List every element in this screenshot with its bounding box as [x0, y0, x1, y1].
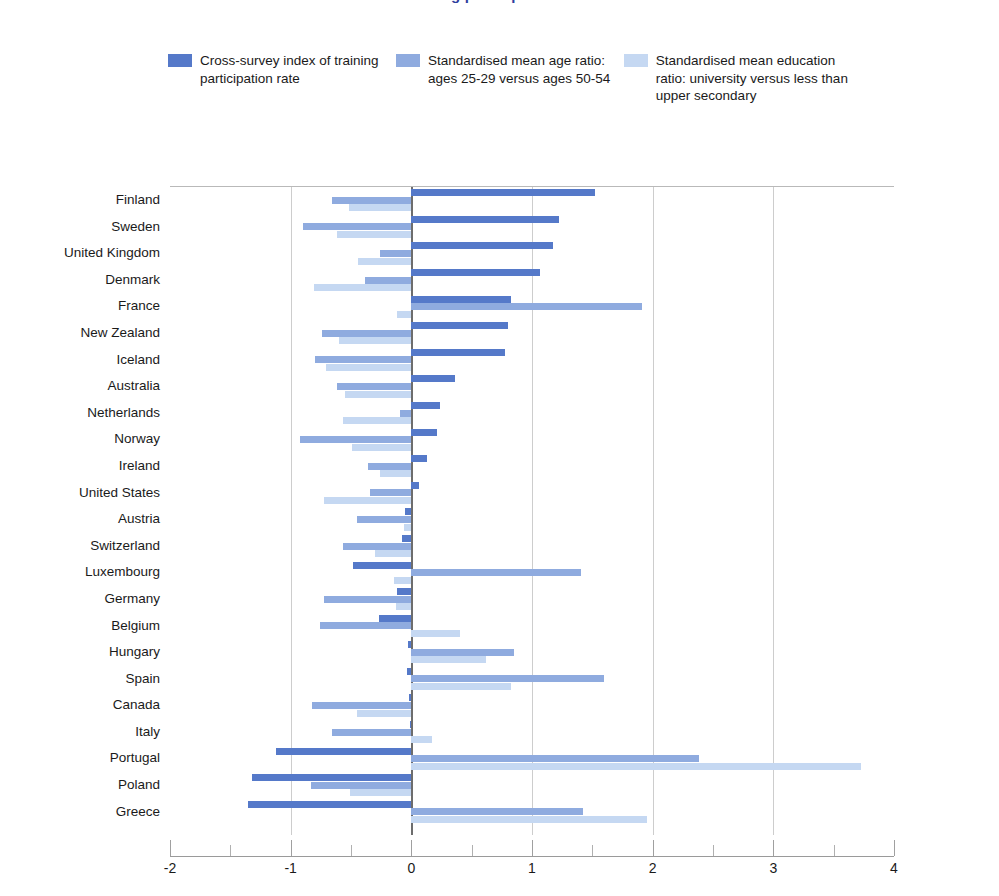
bar-1 — [411, 455, 427, 462]
plot-area — [170, 186, 894, 835]
bar-rows — [170, 187, 894, 835]
bar-1 — [411, 429, 436, 436]
y-axis-label: Luxembourg — [0, 559, 160, 586]
bar-3 — [314, 284, 412, 291]
bar-3 — [411, 816, 646, 823]
x-tick-minor — [834, 845, 835, 856]
bar-1 — [411, 242, 552, 249]
y-axis-label: Netherlands — [0, 400, 160, 427]
y-axis-label: Denmark — [0, 267, 160, 294]
bar-1 — [409, 694, 411, 701]
y-axis-label: Austria — [0, 506, 160, 533]
bar-3 — [326, 364, 412, 371]
bar-2 — [411, 569, 581, 576]
bar-row — [170, 799, 894, 826]
bar-row — [170, 320, 894, 347]
x-axis-tick-label: -2 — [164, 860, 176, 876]
bar-1 — [411, 375, 454, 382]
bar-2 — [332, 729, 412, 736]
y-axis-label: Ireland — [0, 453, 160, 480]
y-axis-label: United States — [0, 480, 160, 507]
x-tick-major — [411, 840, 412, 856]
bar-1 — [411, 296, 511, 303]
bar-1 — [402, 535, 412, 542]
y-axis-label: Sweden — [0, 214, 160, 241]
bar-1 — [407, 668, 412, 675]
y-axis-category-labels: FinlandSwedenUnited KingdomDenmarkFrance… — [0, 187, 160, 836]
bar-3 — [358, 258, 411, 265]
y-axis-label: Greece — [0, 799, 160, 826]
bar-3 — [404, 524, 411, 531]
bar-2 — [315, 356, 412, 363]
x-axis-tick-label: 1 — [528, 860, 536, 876]
x-tick-minor — [351, 845, 352, 856]
bar-row — [170, 692, 894, 719]
bar-row — [170, 559, 894, 586]
bar-2 — [411, 675, 604, 682]
bar-2 — [300, 436, 411, 443]
bar-row — [170, 373, 894, 400]
y-axis-label: Australia — [0, 373, 160, 400]
x-axis-line — [170, 856, 894, 857]
x-axis-tick-label: 0 — [407, 860, 415, 876]
bar-2 — [380, 250, 411, 257]
legend-swatch-series-3 — [624, 54, 648, 67]
bar-row — [170, 267, 894, 294]
bar-1 — [408, 641, 412, 648]
bar-1 — [252, 774, 411, 781]
x-tick-minor — [713, 845, 714, 856]
bar-3 — [411, 736, 432, 743]
legend-label-series-1: Cross-survey index of training participa… — [200, 52, 396, 87]
bar-3 — [352, 444, 411, 451]
bar-2 — [400, 410, 411, 417]
bar-3 — [411, 656, 486, 663]
x-tick-major — [170, 840, 171, 856]
bar-2 — [320, 622, 412, 629]
y-axis-label: Spain — [0, 666, 160, 693]
bar-row — [170, 772, 894, 799]
bar-1 — [411, 349, 505, 356]
y-axis-label: Poland — [0, 772, 160, 799]
bar-row — [170, 187, 894, 214]
bar-1 — [379, 615, 412, 622]
bar-3 — [350, 789, 412, 796]
bar-1 — [411, 269, 540, 276]
bar-row — [170, 400, 894, 427]
bar-2 — [411, 649, 514, 656]
bar-1 — [410, 721, 411, 728]
bar-3 — [357, 710, 411, 717]
bar-row — [170, 639, 894, 666]
legend-swatch-series-2 — [396, 54, 420, 67]
bar-1 — [405, 508, 411, 515]
bar-row — [170, 347, 894, 374]
bar-3 — [343, 417, 412, 424]
bar-row — [170, 613, 894, 640]
bar-1 — [411, 482, 418, 489]
x-tick-major — [773, 840, 774, 856]
bar-2 — [411, 808, 582, 815]
bar-3 — [411, 683, 511, 690]
y-axis-label: Iceland — [0, 347, 160, 374]
bar-3 — [324, 497, 411, 504]
x-tick-major — [532, 840, 533, 856]
bar-3 — [394, 577, 411, 584]
bar-2 — [312, 702, 411, 709]
chart-title: Training participation rates — [0, 0, 999, 6]
bar-3 — [411, 630, 459, 637]
x-axis-tick-label: 3 — [769, 860, 777, 876]
bar-2 — [411, 303, 641, 310]
y-axis-label: Switzerland — [0, 533, 160, 560]
x-tick-major — [653, 840, 654, 856]
legend-label-series-2: Standardised mean age ratio: ages 25-29 … — [428, 52, 624, 87]
legend-item-series-2: Standardised mean age ratio: ages 25-29 … — [396, 52, 624, 87]
y-axis-label: Hungary — [0, 639, 160, 666]
bar-row — [170, 719, 894, 746]
bar-row — [170, 293, 894, 320]
chart-page: Training participation rates Cross-surve… — [0, 0, 999, 896]
bar-3 — [380, 470, 411, 477]
y-axis-label: Canada — [0, 692, 160, 719]
bar-row — [170, 240, 894, 267]
bar-2 — [337, 383, 412, 390]
bar-2 — [311, 782, 411, 789]
bar-1 — [276, 748, 411, 755]
